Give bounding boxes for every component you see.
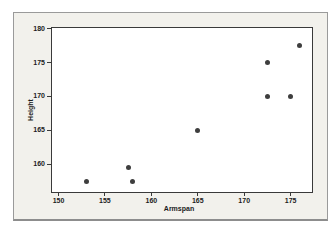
y-axis-tick	[47, 62, 51, 63]
x-axis-tick-label: 160	[136, 197, 166, 205]
screenshot-root: 150155160165170175160165170175180 Height…	[0, 0, 335, 232]
y-axis-tick	[47, 28, 51, 29]
y-axis-tick-label: 165	[15, 126, 45, 134]
x-axis-tick-label: 150	[44, 197, 74, 205]
y-axis-tick	[47, 164, 51, 165]
data-point	[265, 94, 270, 99]
data-point	[288, 94, 293, 99]
x-axis-tick	[151, 192, 152, 196]
x-axis-tick-label: 155	[90, 197, 120, 205]
y-axis-tick	[47, 96, 51, 97]
y-axis-tick-label: 160	[15, 160, 45, 168]
x-axis-tick	[58, 192, 59, 196]
data-point	[130, 179, 135, 184]
plot-area: 150155160165170175160165170175180	[51, 27, 313, 193]
x-axis-tick-label: 170	[229, 197, 259, 205]
data-point	[84, 179, 89, 184]
x-axis-tick	[197, 192, 198, 196]
graph-panel: 150155160165170175160165170175180 Height…	[13, 12, 328, 221]
data-point	[195, 128, 200, 133]
x-axis-title: Armspan	[164, 205, 194, 212]
x-axis-tick	[244, 192, 245, 196]
data-point	[265, 60, 270, 65]
data-point	[297, 43, 302, 48]
data-point	[126, 165, 131, 170]
x-axis-tick	[104, 192, 105, 196]
y-axis-title: Height	[27, 99, 34, 121]
x-axis-tick	[290, 192, 291, 196]
y-axis-tick	[47, 130, 51, 131]
y-axis-tick-label: 180	[15, 25, 45, 33]
x-axis-tick-label: 175	[276, 197, 306, 205]
y-axis-tick-label: 175	[15, 59, 45, 67]
